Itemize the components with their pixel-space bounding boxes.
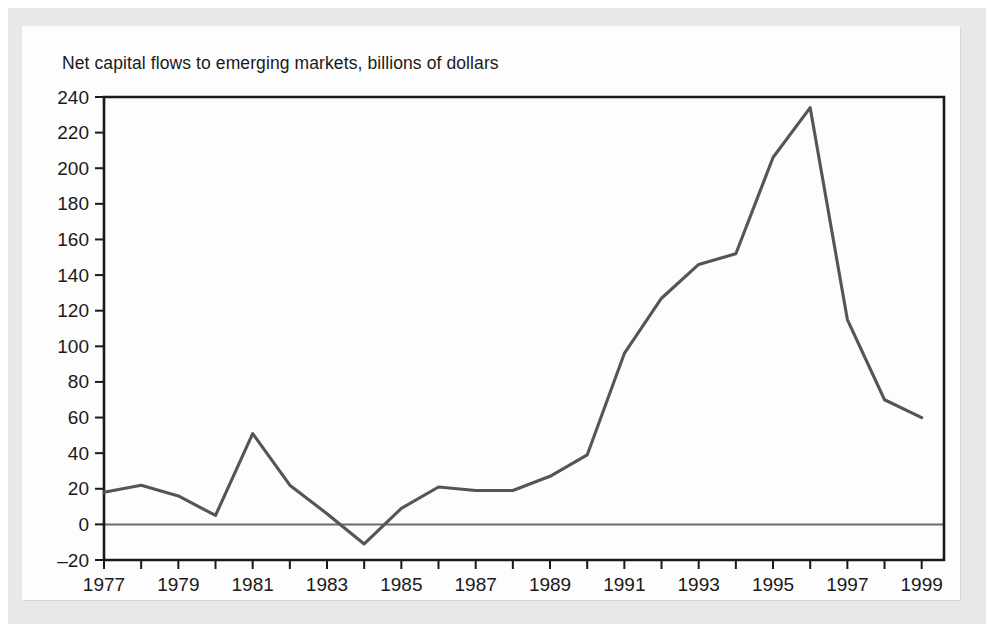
plot-frame-group — [104, 97, 944, 560]
y-axis-tick-label: 220 — [57, 122, 89, 143]
y-axis-labels-group: –20020406080100120140160180200220240 — [57, 87, 89, 571]
y-axis-tick-label: 100 — [57, 336, 89, 357]
y-axis-tick-label: 160 — [57, 229, 89, 250]
x-axis-tick-label: 1993 — [678, 574, 720, 595]
x-axis-tick-label: 1981 — [232, 574, 274, 595]
x-axis-labels-group: 1977197919811983198519871989199119931995… — [83, 574, 943, 595]
x-axis-tick-label: 1977 — [83, 574, 125, 595]
y-axis-tick-label: 40 — [68, 443, 89, 464]
data-series-group — [104, 108, 922, 544]
y-axis-tick-label: 120 — [57, 300, 89, 321]
x-axis-tick-label: 1983 — [306, 574, 348, 595]
x-axis-tick-label: 1985 — [380, 574, 422, 595]
plot-frame — [104, 97, 944, 560]
data-series-line — [104, 108, 922, 544]
x-axis-tick-label: 1979 — [157, 574, 199, 595]
line-chart-plot: –20020406080100120140160180200220240 197… — [0, 0, 994, 632]
y-axis-ticks-group — [95, 97, 104, 560]
y-axis-tick-label: 60 — [68, 407, 89, 428]
x-axis-ticks-group — [104, 560, 922, 569]
x-axis-tick-label: 1999 — [901, 574, 943, 595]
y-axis-tick-label: 0 — [78, 514, 89, 535]
x-axis-tick-label: 1989 — [529, 574, 571, 595]
x-axis-tick-label: 1987 — [455, 574, 497, 595]
x-axis-tick-label: 1995 — [752, 574, 794, 595]
y-axis-tick-label: 80 — [68, 371, 89, 392]
y-axis-tick-label: 140 — [57, 265, 89, 286]
y-axis-tick-label: 240 — [57, 87, 89, 108]
x-axis-tick-label: 1991 — [603, 574, 645, 595]
figure-root: Net capital flows to emerging markets, b… — [0, 0, 994, 632]
x-axis-tick-label: 1997 — [826, 574, 868, 595]
y-axis-tick-label: 180 — [57, 193, 89, 214]
y-axis-tick-label: 20 — [68, 478, 89, 499]
y-axis-tick-label: –20 — [57, 550, 89, 571]
y-axis-tick-label: 200 — [57, 158, 89, 179]
